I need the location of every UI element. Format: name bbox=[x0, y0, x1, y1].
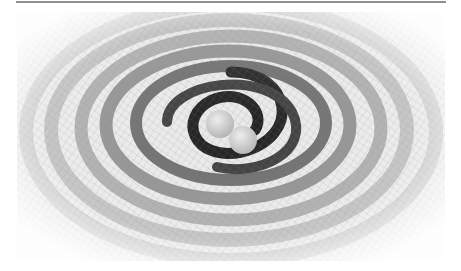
top-divider bbox=[16, 1, 446, 3]
gravitational-wave-illustration: Grayscale illustration of two merging bl… bbox=[17, 12, 445, 261]
